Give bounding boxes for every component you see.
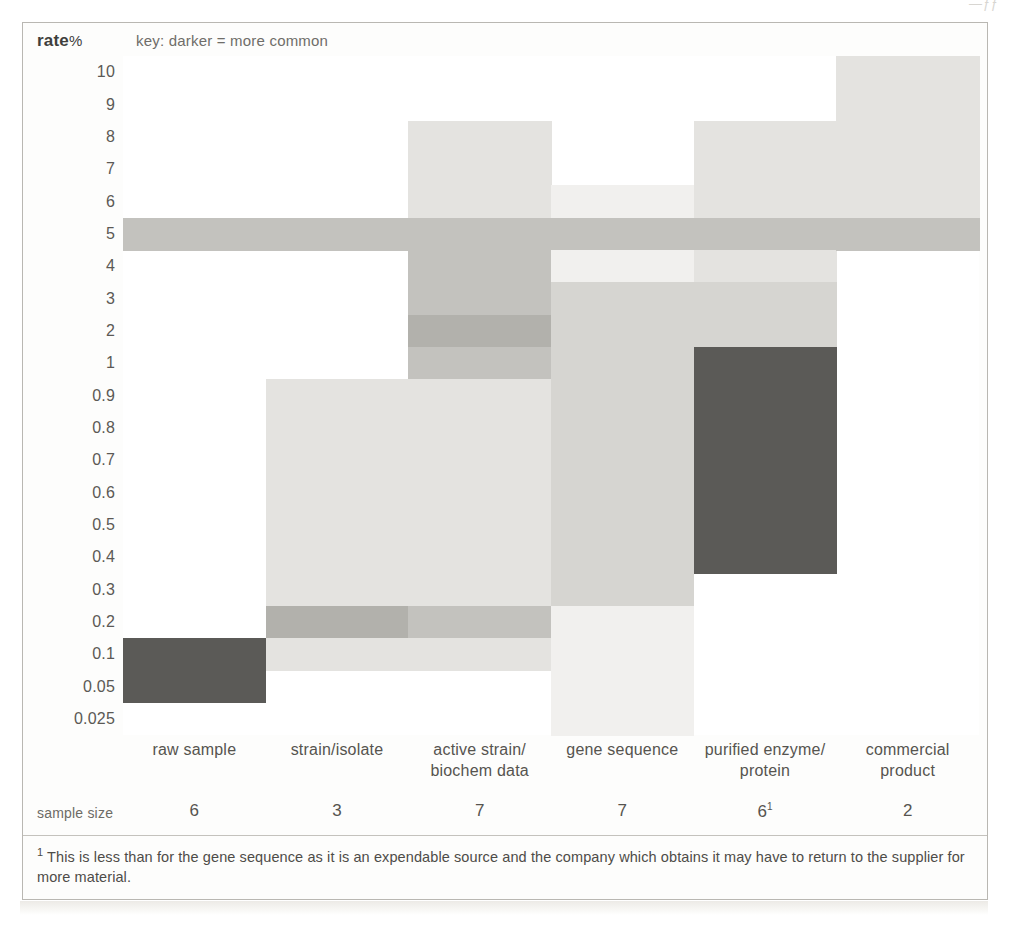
heatmap-cell (408, 638, 551, 671)
heatmap-cell (694, 444, 837, 477)
heatmap-cell (266, 573, 409, 606)
heatmap-cell (551, 703, 694, 736)
y-axis-tick-4: 4 (106, 257, 115, 275)
y-axis-tick-6: 6 (106, 193, 115, 211)
heatmap-cell (551, 412, 694, 445)
heatmap-cell (551, 638, 694, 671)
heatmap-cell (694, 121, 837, 154)
x-axis-label-1: strain/isolate (254, 739, 421, 760)
heatmap-cell (408, 315, 551, 348)
heatmap-cell (123, 638, 266, 671)
y-axis-tick-0-5: 0.5 (92, 516, 115, 534)
y-axis-tick-0-3: 0.3 (92, 581, 115, 599)
sample-size-value-2: 7 (396, 801, 563, 821)
heatmap-cell (266, 541, 409, 574)
heatmap-cell (551, 509, 694, 542)
heatmap-cell (551, 541, 694, 574)
x-axis-label-0: raw sample (111, 739, 278, 760)
y-axis-tick-7: 7 (106, 160, 115, 178)
heatmap-cell (551, 218, 694, 251)
heatmap-cell (551, 606, 694, 639)
x-axis-label-line: gene sequence (539, 739, 706, 760)
y-axis-tick-8: 8 (106, 128, 115, 146)
y-axis-tick-2: 2 (106, 322, 115, 340)
y-axis-tick-5: 5 (106, 225, 115, 243)
y-axis-tick-0-6: 0.6 (92, 484, 115, 502)
heatmap-cell (694, 347, 837, 380)
x-axis-label-line: biochem data (396, 760, 563, 781)
x-axis-label-line: active strain/ (396, 739, 563, 760)
x-axis-label-3: gene sequence (539, 739, 706, 760)
footnote-block: 1 This is less than for the gene sequenc… (23, 835, 987, 899)
heatmap-cell (694, 412, 837, 445)
heatmap-cell (408, 606, 551, 639)
heatmap-cell (694, 541, 837, 574)
heatmap-cell (266, 476, 409, 509)
footnote-text: This is less than for the gene sequence … (37, 849, 965, 885)
sample-size-number: 2 (903, 801, 912, 820)
heatmap-cell (408, 509, 551, 542)
heatmap-cell (551, 347, 694, 380)
heatmap-cell (408, 121, 551, 154)
sample-size-footnote-marker: 1 (767, 801, 773, 812)
y-axis-tick-0-9: 0.9 (92, 387, 115, 405)
x-axis-label-row: raw samplestrain/isolateactive strain/bi… (123, 739, 979, 801)
heatmap-cell (266, 218, 409, 251)
sample-size-label: sample size (37, 805, 113, 821)
heatmap-cell (408, 347, 551, 380)
heatmap-cell (694, 379, 837, 412)
heatmap-cell (266, 638, 409, 671)
heatmap-plot-area: rate% key: darker = more common 10987654… (23, 23, 987, 899)
sample-size-value-0: 6 (111, 801, 278, 821)
sample-size-value-3: 7 (539, 801, 706, 821)
heatmap-cell (266, 412, 409, 445)
heatmap-cell (694, 315, 837, 348)
sample-size-value-5: 2 (824, 801, 991, 821)
x-axis-label-line: protein (682, 760, 849, 781)
sample-size-number: 7 (618, 801, 627, 820)
heatmap-cell (408, 573, 551, 606)
heatmap-cell (266, 606, 409, 639)
heatmap-cell (551, 476, 694, 509)
y-axis-tick-9: 9 (106, 96, 115, 114)
heatmap-cell (408, 412, 551, 445)
footnote-paragraph: 1 This is less than for the gene sequenc… (23, 836, 987, 887)
heatmap-cell (551, 379, 694, 412)
heatmap-grid (123, 56, 979, 735)
y-axis-tick-column: 109876543210.90.80.70.60.50.40.30.20.10.… (23, 23, 123, 735)
y-axis-tick-10: 10 (97, 63, 115, 81)
y-axis-tick-0-4: 0.4 (92, 548, 115, 566)
x-axis-label-5: commercialproduct (824, 739, 991, 781)
x-axis-label-line: raw sample (111, 739, 278, 760)
x-axis-label-line: product (824, 760, 991, 781)
y-axis-tick-0-1: 0.1 (92, 645, 115, 663)
heatmap-cell (551, 444, 694, 477)
heatmap-cell (408, 476, 551, 509)
heatmap-cell (836, 56, 979, 89)
heatmap-cell (123, 670, 266, 703)
heatmap-cell (551, 315, 694, 348)
heatmap-cell (694, 153, 837, 186)
heatmap-cell (836, 153, 979, 186)
heatmap-cell (694, 509, 837, 542)
x-axis-label-4: purified enzyme/protein (682, 739, 849, 781)
heatmap-cell (551, 185, 694, 218)
heatmap-cell (266, 379, 409, 412)
heatmap-cell (836, 218, 979, 251)
sample-size-number: 6 (190, 801, 199, 820)
heatmap-cell (408, 541, 551, 574)
heatmap-cell (551, 573, 694, 606)
sample-size-number: 7 (475, 801, 484, 820)
heatmap-cell (266, 444, 409, 477)
sample-size-number: 3 (332, 801, 341, 820)
heatmap-cell (836, 121, 979, 154)
heatmap-cell (408, 185, 551, 218)
sample-size-row: sample size 6377612 (23, 801, 987, 835)
footnote-marker: 1 (37, 846, 43, 858)
heatmap-cell (694, 218, 837, 251)
sample-size-number: 6 (757, 802, 766, 821)
heatmap-cell (694, 476, 837, 509)
heatmap-cell (551, 250, 694, 283)
y-axis-tick-0-2: 0.2 (92, 613, 115, 631)
heatmap-cell (551, 282, 694, 315)
